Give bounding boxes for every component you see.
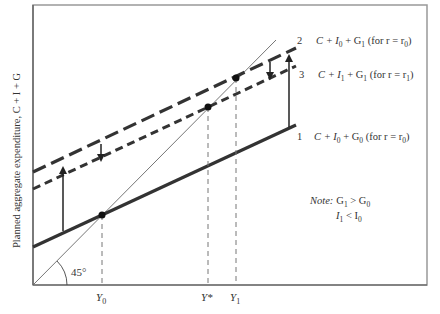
angle-label: 45°	[71, 266, 86, 278]
svg-text:C + I0 + G0 (for r = r0): C + I0 + G0 (for r = r0)	[314, 131, 410, 145]
angle-arc	[57, 261, 67, 285]
svg-text:C + I0 + G1 (for r = r0): C + I0 + G1 (for r = r0)	[316, 35, 412, 49]
ae-line-1	[33, 125, 296, 247]
line-label-3: 3 C + I1 + G1 (for r = r1)	[299, 69, 414, 83]
svg-text:3: 3	[299, 69, 304, 80]
line-label-1: 1 C + I0 + G0 (for r = r0)	[297, 131, 410, 145]
xtick-y0: Y0	[96, 291, 106, 306]
svg-text:C + I1 + G1 (for r = r1): C + I1 + G1 (for r = r1)	[318, 69, 414, 83]
y-axis-label: Planned aggregate expenditure, C + I + G	[11, 72, 22, 248]
svg-text:2: 2	[297, 35, 302, 46]
keynesian-cross-diagram: 45° Y0 Y* Y1 Planned aggregate expenditu…	[0, 0, 440, 314]
svg-text:Note:G1 > G0: Note:G1 > G0	[309, 195, 370, 209]
xtick-ystar: Y*	[201, 291, 213, 303]
ae-line-3	[33, 66, 296, 189]
note: Note:G1 > G0 I1 < I0	[309, 195, 370, 224]
svg-text:1: 1	[297, 131, 302, 142]
svg-text:I1 < I0: I1 < I0	[335, 210, 362, 224]
line-label-2: 2 C + I0 + G1 (for r = r0)	[297, 35, 412, 49]
equilibrium-point-ystar	[205, 104, 212, 111]
equilibrium-point-y1	[233, 75, 240, 82]
45-degree-line	[33, 40, 276, 285]
ae-line-2	[33, 48, 296, 172]
equilibrium-point-y0	[99, 212, 106, 219]
xtick-y1: Y1	[230, 291, 240, 306]
